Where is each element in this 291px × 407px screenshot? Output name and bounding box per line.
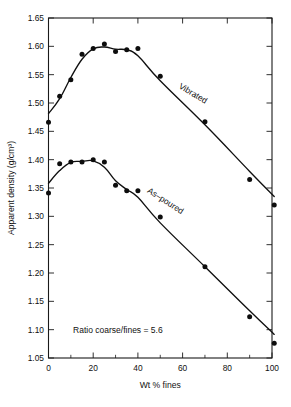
series-label-group: As–poured (146, 185, 186, 216)
y-tick-label: 1.40 (28, 155, 45, 165)
series-as-poured (46, 157, 277, 346)
data-point (80, 52, 85, 57)
x-tick-label: 0 (46, 363, 51, 373)
y-tick-label: 1.25 (28, 240, 45, 250)
y-tick-label: 1.05 (28, 353, 45, 363)
y-tick-label: 1.55 (28, 70, 45, 80)
y-tick-label: 1.20 (28, 268, 45, 278)
data-point (57, 94, 62, 99)
x-tick-label: 100 (265, 363, 279, 373)
series-curve (49, 47, 275, 197)
x-tick-label: 40 (133, 363, 143, 373)
data-point (272, 203, 277, 208)
data-point (91, 157, 96, 162)
series-label: As–poured (146, 185, 186, 216)
data-point (124, 47, 129, 52)
y-tick-label: 1.30 (28, 211, 45, 221)
ratio-annotation: Ratio coarse/fines = 5.6 (73, 325, 163, 335)
data-point (46, 120, 51, 125)
y-tick-label: 1.50 (28, 98, 45, 108)
data-point (135, 46, 140, 51)
data-point (158, 74, 163, 79)
data-point (135, 188, 140, 193)
data-point (202, 264, 207, 269)
y-tick-label: 1.60 (28, 41, 45, 51)
chart-figure: 1.051.101.151.201.251.301.351.401.451.50… (0, 0, 291, 407)
y-axis-title-group: Apparent density (g/cm³) (6, 141, 16, 235)
y-tick-label: 1.10 (28, 325, 45, 335)
series-curve (49, 160, 275, 334)
data-point (57, 161, 62, 166)
y-tick-label: 1.45 (28, 126, 45, 136)
x-axis-title: Wt % fines (140, 380, 181, 390)
data-point (68, 77, 73, 82)
y-axis-title: Apparent density (g/cm³) (6, 141, 16, 235)
data-point (158, 214, 163, 219)
apparent-density-chart: 1.051.101.151.201.251.301.351.401.451.50… (0, 0, 291, 407)
y-tick-label: 1.35 (28, 183, 45, 193)
y-tick-label: 1.65 (28, 13, 45, 23)
plot-frame (49, 18, 273, 358)
data-point (124, 188, 129, 193)
data-point (247, 177, 252, 182)
data-point (102, 42, 107, 47)
data-point (202, 119, 207, 124)
data-point (46, 191, 51, 196)
y-tick-label: 1.15 (28, 296, 45, 306)
series-vibrated (46, 42, 277, 208)
data-point (91, 46, 96, 51)
data-point (247, 314, 252, 319)
data-point (80, 159, 85, 164)
data-point (102, 159, 107, 164)
data-point (68, 159, 73, 164)
data-point (113, 183, 118, 188)
x-tick-label: 60 (178, 363, 188, 373)
data-point (272, 341, 277, 346)
data-point (113, 49, 118, 54)
x-tick-label: 20 (89, 363, 99, 373)
x-tick-label: 80 (223, 363, 233, 373)
